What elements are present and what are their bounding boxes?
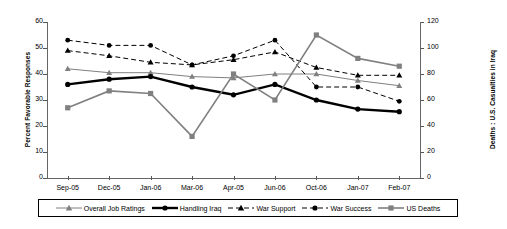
x-axis-tick-label: Jan-06 — [129, 184, 173, 191]
x-axis-tick-label: Feb-07 — [377, 184, 421, 191]
chart-legend: Overall Job RatingsHandling IraqWar Supp… — [38, 199, 458, 217]
data-point — [189, 84, 194, 89]
legend-item-label: War Success — [330, 205, 371, 212]
legend-item-label: War Support — [256, 205, 295, 212]
legend-item-overall-job-ratings[interactable]: Overall Job Ratings — [56, 203, 145, 213]
y-axis-left-tick-label: 50 — [21, 43, 43, 50]
data-point — [148, 91, 153, 96]
plot-area — [47, 22, 420, 178]
y-axis-left-tick-label: 40 — [21, 69, 43, 76]
y-axis-left-tick-label: 10 — [21, 147, 43, 154]
legend-item-us-deaths[interactable]: US Deaths — [378, 203, 440, 213]
legend-item-handling-iraq[interactable]: Handling Iraq — [152, 203, 222, 213]
data-point — [231, 92, 236, 97]
data-point — [65, 66, 71, 71]
y-axis-right-tick-label: 20 — [427, 147, 451, 154]
data-point — [231, 71, 236, 76]
legend-swatch-icon — [228, 203, 254, 213]
legend-item-label: US Deaths — [406, 205, 440, 212]
legend-swatch-icon — [56, 203, 82, 213]
x-axis-tick-label: Jan-07 — [336, 184, 380, 191]
legend-item-label: Handling Iraq — [180, 205, 222, 212]
y-axis-left-tick-label: 20 — [21, 121, 43, 128]
series-line — [68, 35, 400, 136]
data-point — [397, 64, 402, 69]
data-point — [231, 53, 236, 58]
data-point — [355, 85, 360, 90]
legend-item-war-support[interactable]: War Support — [228, 203, 295, 213]
data-point — [65, 82, 70, 87]
y-axis-right-title: Deaths : U.S. Casualties in Iraq — [489, 30, 496, 170]
data-point — [355, 56, 360, 61]
x-axis-tick-label: Mar-06 — [170, 184, 214, 191]
x-axis-tick-label: Sep-05 — [46, 184, 90, 191]
data-point — [65, 38, 70, 43]
data-point — [396, 72, 402, 77]
data-point — [272, 82, 277, 87]
series-canvas — [47, 22, 420, 178]
legend-swatch-icon — [378, 203, 404, 213]
x-axis-tick-label: Oct-06 — [294, 184, 338, 191]
legend-swatch-icon — [302, 203, 328, 213]
data-point — [397, 109, 402, 114]
chart-container: Percent Favorable Responses Deaths : U.S… — [0, 0, 507, 229]
data-point — [314, 85, 319, 90]
data-point — [272, 97, 277, 102]
data-point — [190, 63, 195, 68]
y-axis-left-tick-label: 0 — [21, 173, 43, 180]
data-point — [189, 134, 194, 139]
y-axis-left-tick-label: 30 — [21, 95, 43, 102]
legend-item-label: Overall Job Ratings — [84, 205, 145, 212]
legend-swatch-icon — [152, 203, 178, 213]
x-axis-tick-label: Dec-05 — [87, 184, 131, 191]
x-axis-tick-label: Apr-05 — [212, 184, 256, 191]
data-point — [272, 49, 278, 54]
data-point — [148, 43, 153, 48]
y-axis-right-tick-label: 80 — [427, 69, 451, 76]
series-us-deaths — [65, 32, 402, 139]
data-point — [314, 32, 319, 37]
data-point — [314, 97, 319, 102]
data-point — [397, 99, 402, 104]
y-axis-right-tick-label: 0 — [427, 173, 451, 180]
y-axis-right-tick-label: 40 — [427, 121, 451, 128]
y-axis-right-tick-label: 120 — [427, 17, 451, 24]
data-point — [107, 77, 112, 82]
data-point — [107, 88, 112, 93]
y-axis-right-line — [420, 22, 421, 178]
y-axis-left-tick-label: 60 — [21, 17, 43, 24]
data-point — [273, 38, 278, 43]
y-axis-right-tick-label: 100 — [427, 43, 451, 50]
data-point — [107, 43, 112, 48]
data-point — [355, 107, 360, 112]
y-axis-right-tick-mark — [420, 178, 424, 179]
data-point — [65, 48, 71, 53]
data-point — [65, 105, 70, 110]
x-axis-tick-label: Jun-06 — [253, 184, 297, 191]
data-point — [148, 74, 153, 79]
y-axis-right-tick-label: 60 — [427, 95, 451, 102]
legend-item-war-success[interactable]: War Success — [302, 203, 371, 213]
data-point — [106, 53, 112, 58]
series-overall-job-ratings — [65, 66, 403, 88]
